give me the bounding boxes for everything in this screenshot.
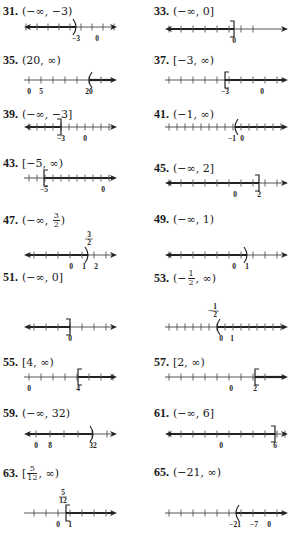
tick-label: 0 xyxy=(27,384,31,393)
tick-label: −5 xyxy=(40,185,48,194)
problem-43: 43.[−5, ∞)−50 xyxy=(0,156,150,216)
tick-label: 0 xyxy=(219,441,223,450)
number-line: −21−70 xyxy=(151,465,301,543)
tick-label: 0 xyxy=(240,134,244,143)
tick-label: 0 xyxy=(229,384,233,393)
tick-label: −3 xyxy=(221,87,229,96)
problem-51: 51.(−∞, 0]0 xyxy=(0,270,150,330)
problem-53: 53.(−12, ∞)01−12 xyxy=(151,270,301,330)
tick-label: −7 xyxy=(250,520,258,529)
problem-47: 47.(−∞, 32)01232 xyxy=(0,212,150,272)
tick-label: 0 xyxy=(56,520,60,529)
tick-label: 5 xyxy=(39,87,43,96)
number-line: 0 xyxy=(0,270,150,350)
tick-label: 0 xyxy=(95,34,99,43)
problem-41: 41.(−1, ∞)−10 xyxy=(151,107,301,167)
number-line: 01−12 xyxy=(151,270,301,350)
tick-label: 0 xyxy=(267,520,271,529)
tick-label: −1 xyxy=(228,134,236,143)
tick-label: −21 xyxy=(229,520,241,529)
problem-35: 35.(20, ∞)0520 xyxy=(0,53,150,113)
svg-text:2: 2 xyxy=(87,238,91,247)
tick-label: 0 xyxy=(34,441,38,450)
problem-61: 61.(−∞, 6]06 xyxy=(151,406,301,466)
tick-label: 0 xyxy=(27,87,31,96)
problem-37: 37.[−3, ∞)−30 xyxy=(151,53,301,113)
problem-65: 65.(−21, ∞)−21−70 xyxy=(151,465,301,525)
tick-label: 0 xyxy=(83,134,87,143)
tick-label: 32 xyxy=(89,441,97,450)
tick-label: 0 xyxy=(233,190,237,199)
tick-label: 0 xyxy=(260,87,264,96)
problem-63: 63.[512, ∞)01512 xyxy=(0,465,150,525)
tick-label: 1 xyxy=(68,520,72,529)
tick-label: 4 xyxy=(76,384,80,393)
tick-label: −3 xyxy=(57,134,65,143)
problem-49: 49.(−∞, 1)01 xyxy=(151,212,301,272)
tick-label: 20 xyxy=(85,87,93,96)
problem-59: 59.(−∞, 32)0832 xyxy=(0,406,150,466)
tick-label: 0 xyxy=(101,185,105,194)
tick-label: 6 xyxy=(273,441,277,450)
number-line: 01512 xyxy=(0,465,150,543)
tick-label: 1 xyxy=(230,334,234,343)
tick-label: 0 xyxy=(232,36,236,45)
svg-text:2: 2 xyxy=(213,310,217,319)
svg-text:−: − xyxy=(208,306,212,315)
tick-label: 8 xyxy=(48,441,52,450)
tick-label: 0 xyxy=(68,334,72,343)
tick-label: −3 xyxy=(72,34,80,43)
svg-text:12: 12 xyxy=(59,496,67,505)
tick-label: 2 xyxy=(257,190,261,199)
tick-label: 2 xyxy=(253,384,257,393)
tick-label: 0 xyxy=(219,334,223,343)
